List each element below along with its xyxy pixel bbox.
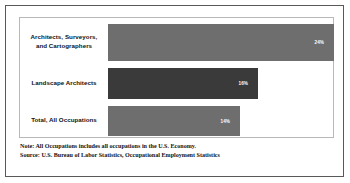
bar-category-label-line1: Architects, Surveyors,: [22, 33, 106, 42]
chart-figure: Architects, Surveyors, and Cartographers…: [5, 5, 344, 177]
bar-category-label-line1: Landscape Architects: [22, 79, 106, 88]
footnote-source: Source: U.S. Bureau of Labor Statistics,…: [20, 151, 330, 160]
bar-category-label-line2: and Cartographers: [22, 42, 106, 51]
bar-category-label: Landscape Architects: [22, 79, 106, 88]
bar-architects-surveyors-cartographers[interactable]: 24%: [108, 24, 334, 61]
bar-row: Landscape Architects 16%: [20, 68, 333, 99]
footnote-note: Note: All Occupations includes all occup…: [20, 142, 330, 151]
bar-category-label: Total, All Occupations: [22, 116, 106, 125]
bar-landscape-architects[interactable]: 16%: [108, 68, 258, 99]
bar-value-label: 24%: [315, 40, 335, 45]
bar-total-all-occupations[interactable]: 14%: [108, 106, 240, 136]
bar-value-label: 14%: [221, 119, 241, 124]
plot-area: Architects, Surveyors, and Cartographers…: [19, 17, 334, 138]
bar-value-label: 16%: [239, 81, 259, 86]
bar-row: Architects, Surveyors, and Cartographers…: [20, 24, 333, 61]
bar-category-label-line1: Total, All Occupations: [22, 116, 106, 125]
footnote: Note: All Occupations includes all occup…: [20, 142, 330, 161]
bar-category-label: Architects, Surveyors, and Cartographers: [22, 33, 106, 51]
bars-container: Architects, Surveyors, and Cartographers…: [20, 18, 333, 137]
bar-row: Total, All Occupations 14%: [20, 106, 333, 136]
